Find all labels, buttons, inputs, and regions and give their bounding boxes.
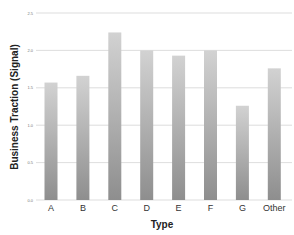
x-tick-label: F	[208, 203, 214, 213]
x-axis-title: Type	[151, 219, 174, 230]
bar-d	[140, 50, 153, 200]
bar-e	[172, 56, 185, 200]
y-tick-label: 0.5	[27, 160, 33, 165]
bar-chart: 0.00.51.01.52.02.5 ABCDEFGOther Type Bus…	[0, 0, 294, 235]
x-tick-label: G	[239, 203, 246, 213]
y-tick-label: 2.5	[27, 11, 33, 16]
bar-g	[236, 106, 249, 200]
bar-c	[108, 32, 121, 200]
y-axis-title: Business Traction (Signal)	[9, 44, 20, 170]
y-tick-label: 2.0	[27, 48, 33, 53]
y-tick-label: 0.0	[27, 198, 33, 203]
x-tick-label: A	[48, 203, 54, 213]
x-tick-label: E	[176, 203, 182, 213]
bars	[45, 32, 281, 200]
x-tick-label: B	[80, 203, 86, 213]
bar-a	[45, 83, 58, 200]
x-axis-ticks: ABCDEFGOther	[48, 203, 286, 213]
bar-f	[204, 50, 217, 200]
x-tick-label: Other	[263, 203, 286, 213]
bar-b	[76, 76, 89, 200]
gridlines	[36, 13, 292, 200]
y-tick-label: 1.0	[27, 123, 33, 128]
x-tick-label: C	[112, 203, 119, 213]
y-tick-label: 1.5	[27, 85, 33, 90]
bar-other	[268, 68, 281, 200]
x-tick-label: D	[143, 203, 150, 213]
y-axis-ticks: 0.00.51.01.52.02.5	[27, 11, 33, 203]
